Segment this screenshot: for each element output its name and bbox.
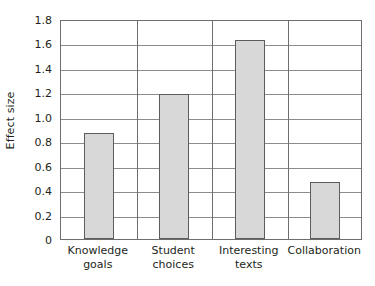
y-axis-tick-label: 0 xyxy=(45,234,52,247)
y-axis-tick-label: 1.6 xyxy=(35,38,53,51)
y-axis-title-label: Effect size xyxy=(5,91,18,149)
y-axis-tick-label: 1.4 xyxy=(35,62,53,75)
bar xyxy=(84,133,114,239)
plot-area xyxy=(60,20,362,240)
y-axis-tick-label: 0.6 xyxy=(35,160,53,173)
x-axis-tick-label-line: Collaboration xyxy=(279,244,371,258)
x-axis-tick-label-line: texts xyxy=(203,258,295,272)
bar xyxy=(310,182,340,239)
y-axis-tick-label: 1.2 xyxy=(35,87,53,100)
y-axis-tick-labels: 00.20.40.60.81.01.21.41.61.8 xyxy=(20,0,56,260)
y-axis-tick-label: 0.8 xyxy=(35,136,53,149)
bars-layer xyxy=(61,21,361,239)
x-axis-tick-labels: KnowledgegoalsStudentchoicesInterestingt… xyxy=(60,244,362,284)
x-axis-tick-label: Collaboration xyxy=(279,244,371,258)
y-axis-tick-label: 1.0 xyxy=(35,111,53,124)
y-axis-title: Effect size xyxy=(0,0,22,240)
y-axis-tick-label: 0.4 xyxy=(35,185,53,198)
bar xyxy=(235,40,265,239)
y-axis-tick-label: 1.8 xyxy=(35,14,53,27)
bar xyxy=(159,94,189,239)
bar-chart-figure: Effect size 00.20.40.60.81.01.21.41.61.8… xyxy=(0,0,375,286)
y-axis-tick-label: 0.2 xyxy=(35,209,53,222)
